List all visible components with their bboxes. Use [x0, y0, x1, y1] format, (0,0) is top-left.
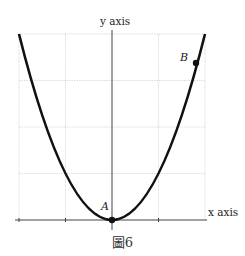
figure-caption: 圖6 [0, 232, 245, 251]
x-axis-label: x axis [208, 206, 238, 218]
point-a-label: A [100, 200, 109, 213]
point-b [193, 60, 199, 66]
point-b-label: B [179, 51, 188, 64]
point-a [109, 217, 115, 223]
y-axis-label: y axis [99, 15, 130, 27]
parabola-diagram: A B y axis x axis [0, 0, 245, 256]
